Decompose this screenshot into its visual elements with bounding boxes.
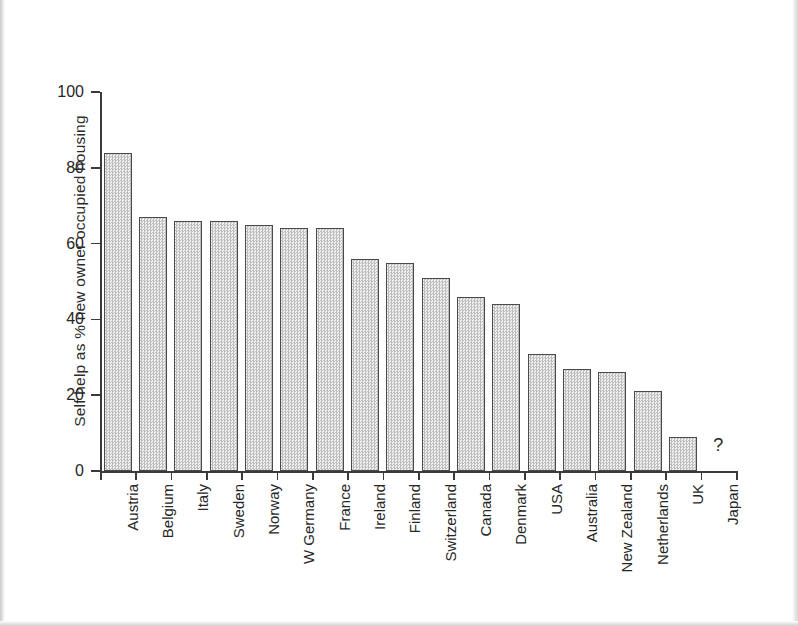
x-tick bbox=[665, 471, 667, 480]
x-label-italy: Italy bbox=[194, 484, 211, 512]
x-tick bbox=[277, 471, 279, 480]
bar-australia bbox=[563, 369, 591, 471]
bar-austria bbox=[104, 153, 132, 471]
y-tick-60: 60 bbox=[91, 243, 100, 245]
x-tick bbox=[206, 471, 208, 480]
y-tick-label: 40 bbox=[66, 310, 84, 328]
x-label-netherlands: Netherlands bbox=[654, 484, 671, 565]
x-label-usa: USA bbox=[548, 484, 565, 515]
missing-data-marker: ? bbox=[713, 435, 723, 456]
x-tick bbox=[347, 471, 349, 480]
bar-usa bbox=[528, 354, 556, 471]
plot-area: 020406080100 AustriaBelgiumItalySwedenNo… bbox=[100, 92, 736, 471]
bar-new-zealand bbox=[598, 372, 626, 471]
bar-sweden bbox=[210, 221, 238, 471]
bar-belgium bbox=[139, 217, 167, 471]
x-label-switzerland: Switzerland bbox=[442, 484, 459, 562]
bar-italy bbox=[174, 221, 202, 471]
bar-canada bbox=[457, 297, 485, 471]
bar-netherlands bbox=[634, 391, 662, 471]
y-tick-40: 40 bbox=[91, 319, 100, 321]
x-tick bbox=[135, 471, 137, 480]
bar-w-germany bbox=[280, 228, 308, 471]
y-tick-label: 80 bbox=[66, 159, 84, 177]
x-label-sweden: Sweden bbox=[230, 484, 247, 538]
x-tick bbox=[418, 471, 420, 480]
x-label-finland: Finland bbox=[406, 484, 423, 533]
bar-uk bbox=[669, 437, 697, 471]
bar-chart: Self help as % new owner occupied housin… bbox=[0, 0, 798, 626]
x-tick bbox=[383, 471, 385, 480]
x-tick bbox=[630, 471, 632, 480]
x-tick bbox=[559, 471, 561, 480]
x-label-norway: Norway bbox=[265, 484, 282, 535]
x-label-new-zealand: New Zealand bbox=[618, 484, 635, 572]
y-tick-label: 0 bbox=[75, 462, 84, 480]
y-tick-0: 0 bbox=[91, 470, 100, 472]
page-background: Self help as % new owner occupied housin… bbox=[0, 0, 798, 626]
x-tick bbox=[701, 471, 703, 480]
bar-ireland bbox=[351, 259, 379, 471]
x-tick bbox=[241, 471, 243, 480]
x-label-australia: Australia bbox=[583, 484, 600, 542]
y-axis-line bbox=[100, 92, 102, 471]
y-axis-title: Self help as % new owner occupied housin… bbox=[71, 71, 89, 471]
x-tick bbox=[489, 471, 491, 480]
x-tick bbox=[100, 471, 102, 480]
bar-norway bbox=[245, 225, 273, 471]
x-label-france: France bbox=[336, 484, 353, 531]
y-tick-80: 80 bbox=[91, 167, 100, 169]
x-label-canada: Canada bbox=[477, 484, 494, 537]
x-tick bbox=[524, 471, 526, 480]
bar-france bbox=[316, 228, 344, 471]
x-tick bbox=[453, 471, 455, 480]
x-tick bbox=[312, 471, 314, 480]
x-label-ireland: Ireland bbox=[371, 484, 388, 530]
x-label-w-germany: W Germany bbox=[300, 484, 317, 564]
x-tick bbox=[171, 471, 173, 480]
x-label-denmark: Denmark bbox=[512, 484, 529, 545]
y-tick-label: 60 bbox=[66, 235, 84, 253]
x-label-austria: Austria bbox=[124, 484, 141, 531]
x-label-belgium: Belgium bbox=[159, 484, 176, 538]
x-label-japan: Japan bbox=[724, 484, 741, 525]
x-label-uk: UK bbox=[689, 484, 706, 505]
bar-denmark bbox=[492, 304, 520, 471]
y-tick-label: 100 bbox=[57, 83, 84, 101]
x-tick bbox=[736, 471, 738, 480]
x-tick bbox=[595, 471, 597, 480]
bar-finland bbox=[386, 263, 414, 471]
y-tick-20: 20 bbox=[91, 394, 100, 396]
y-tick-label: 20 bbox=[66, 386, 84, 404]
y-tick-100: 100 bbox=[91, 91, 100, 93]
bar-switzerland bbox=[422, 278, 450, 471]
